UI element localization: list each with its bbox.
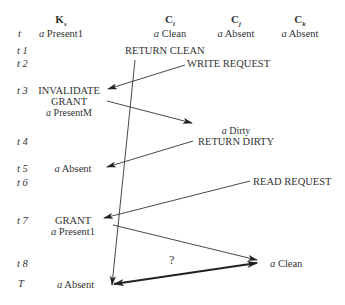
return-dirty-arrow (107, 141, 193, 167)
read-request-arrow (104, 181, 250, 218)
arrows-layer (0, 0, 345, 305)
grant-arrow-1 (107, 101, 192, 123)
conflict-arrow (114, 263, 257, 284)
return-clean-arrow (112, 60, 135, 285)
grant-arrow-2 (113, 225, 257, 260)
write-request-arrow (108, 65, 185, 89)
